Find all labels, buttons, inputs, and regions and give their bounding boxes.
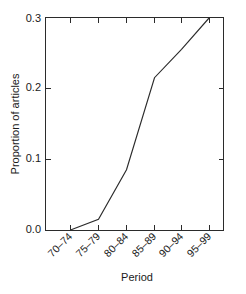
chart-figure: 0.0 0.1 0.2 0.3 70–74 75–79 80–84 85–89 … bbox=[0, 0, 246, 294]
x-axis-ticks bbox=[71, 225, 210, 230]
line-chart: 0.0 0.1 0.2 0.3 70–74 75–79 80–84 85–89 … bbox=[0, 0, 246, 294]
plot-frame bbox=[46, 18, 224, 231]
x-axis-ticks-top bbox=[71, 18, 210, 23]
x-tick-labels: 70–74 75–79 80–84 85–89 90–94 95–99 bbox=[45, 230, 213, 259]
x-tick-label-5: 95–99 bbox=[184, 230, 213, 259]
x-tick-label-3: 85–89 bbox=[129, 230, 158, 259]
x-tick-label-2: 80–84 bbox=[101, 230, 130, 259]
y-tick-label-0: 0.0 bbox=[26, 223, 41, 235]
y-tick-label-2: 0.2 bbox=[26, 81, 41, 93]
y-tick-label-1: 0.1 bbox=[26, 152, 41, 164]
data-line bbox=[71, 18, 210, 231]
y-axis-ticks bbox=[46, 18, 51, 231]
y-tick-label-3: 0.3 bbox=[26, 12, 41, 24]
data-series-proportion-of-articles bbox=[71, 18, 210, 231]
x-tick-label-0: 70–74 bbox=[45, 230, 74, 259]
x-tick-label-1: 75–79 bbox=[73, 230, 102, 259]
x-tick-label-4: 90–94 bbox=[156, 230, 185, 259]
y-axis-ticks-right bbox=[219, 18, 224, 231]
x-axis-title: Period bbox=[121, 271, 153, 283]
y-tick-labels: 0.0 0.1 0.2 0.3 bbox=[26, 12, 41, 235]
y-axis-title: Proportion of articles bbox=[9, 73, 21, 174]
